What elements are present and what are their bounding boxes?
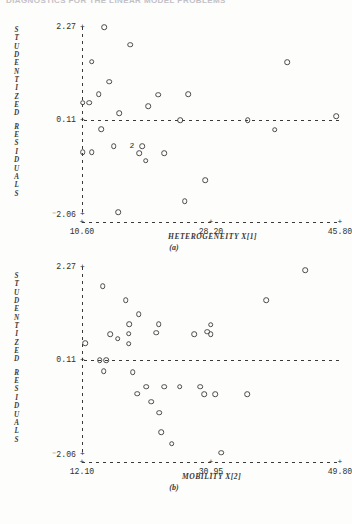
data-point xyxy=(123,297,129,303)
y-axis-title-letter: U xyxy=(14,165,19,173)
data-point xyxy=(80,100,86,106)
y-axis-title-letter: L xyxy=(14,181,18,189)
data-point xyxy=(103,357,109,363)
data-point xyxy=(161,384,167,390)
y-axis-title-letter: I xyxy=(15,148,18,156)
data-point xyxy=(177,117,183,123)
plot-area-a: ++++10.60+28.20+45.802 xyxy=(82,27,340,214)
x-tick-label: 49.80 xyxy=(328,467,352,476)
data-point xyxy=(218,450,224,456)
data-point xyxy=(263,297,269,303)
y-axis-title-letter: U xyxy=(14,289,19,297)
y-axis-title-letter: S xyxy=(15,272,19,280)
data-point xyxy=(198,384,204,390)
data-point xyxy=(191,332,197,338)
data-point xyxy=(130,369,136,375)
data-point xyxy=(126,341,132,347)
data-point xyxy=(169,441,175,447)
figure-a: STUDENTIZEDRESIDUALS 2.27 0.11 2.06 ++++… xyxy=(0,10,348,238)
data-point xyxy=(96,91,102,97)
data-point xyxy=(126,331,132,337)
y-axis-tick-mark: + xyxy=(80,264,86,270)
x-axis-tick-mark: + xyxy=(338,218,343,226)
data-point xyxy=(185,92,191,98)
data-point xyxy=(302,268,308,274)
y-axis-title-letter: E xyxy=(14,347,19,355)
y-tick-label-a-bottom: 2.06 xyxy=(16,209,76,219)
data-point xyxy=(117,111,123,117)
x-tick-label: 45.80 xyxy=(328,227,352,236)
x-axis-tick-mark: + xyxy=(209,218,214,226)
data-point xyxy=(106,79,112,85)
y-axis-title-letter: Z xyxy=(14,93,18,101)
y-axis-title-letter: Z xyxy=(14,339,18,347)
y-axis-title-letter: D xyxy=(14,156,19,164)
data-point xyxy=(126,321,132,327)
running-head: DIAGNOSTICS FOR THE LINEAR MODEL PROBLEM… xyxy=(6,0,342,6)
data-point xyxy=(213,391,219,397)
data-point xyxy=(87,100,93,106)
y-axis-title-letter: S xyxy=(15,139,19,147)
y-axis-title-letter: E xyxy=(14,101,19,109)
y-axis-title-letter: E xyxy=(14,377,19,385)
y-axis-title-letter: S xyxy=(15,190,19,198)
y-axis-title-letter: I xyxy=(15,394,18,402)
y-axis-title-letter: A xyxy=(14,173,19,181)
y-axis-title-letter: U xyxy=(14,411,19,419)
data-point xyxy=(135,391,141,397)
data-point xyxy=(202,178,208,184)
y-axis-title-letter: L xyxy=(14,427,18,435)
y-tick-label-a-top: 2.27 xyxy=(16,22,76,31)
data-point xyxy=(155,92,161,98)
y-axis-title-letter: R xyxy=(14,369,19,377)
data-point xyxy=(115,336,121,342)
y-axis-title-letter: D xyxy=(14,297,19,305)
data-point xyxy=(101,368,107,374)
data-point xyxy=(107,331,113,337)
data-point xyxy=(157,410,163,416)
data-point xyxy=(136,311,142,317)
y-axis-title-letter: T xyxy=(14,322,18,330)
data-point-multiple: 2 xyxy=(129,142,134,150)
y-axis-title-letter: T xyxy=(14,76,18,84)
y-axis-title-letter: T xyxy=(14,34,18,42)
data-point xyxy=(334,114,340,120)
y-axis-title-letter: E xyxy=(14,131,19,139)
x-tick-label: 12.10 xyxy=(70,467,95,476)
y-axis-title-letter: S xyxy=(15,385,19,393)
data-point xyxy=(244,391,250,397)
y-axis-title-letter: D xyxy=(14,402,19,410)
data-point xyxy=(245,117,251,123)
y-axis-tick-mark: + xyxy=(80,24,86,30)
data-point xyxy=(98,127,104,133)
data-point xyxy=(144,384,150,390)
x-tick-label: 10.60 xyxy=(70,227,95,236)
y-axis-title-letter: S xyxy=(15,436,19,444)
data-point xyxy=(83,341,89,347)
y-axis-title-letter: T xyxy=(14,280,18,288)
y-axis-title-letter: E xyxy=(14,305,19,313)
data-point xyxy=(159,430,165,436)
data-point xyxy=(139,143,145,149)
y-tick-label-a-mid: 0.11 xyxy=(16,115,76,124)
data-point xyxy=(101,24,107,30)
plot-area-b: ++++12.10+30.95+49.80 xyxy=(82,267,340,454)
data-point xyxy=(89,149,95,155)
y-axis-title-letter: U xyxy=(14,43,19,51)
y-tick-label-b-mid: 0.11 xyxy=(16,355,76,364)
data-point xyxy=(136,150,142,156)
data-point xyxy=(80,149,86,155)
y-axis-title-a: STUDENTIZEDRESIDUALS xyxy=(14,26,19,198)
x-axis-title-b: MOBILITY X[2] xyxy=(182,472,241,481)
data-point xyxy=(204,329,210,335)
y-tick-label-b-bottom: 2.06 xyxy=(16,449,76,459)
data-point xyxy=(111,143,117,149)
data-point xyxy=(208,322,214,328)
y-axis-title-letter: I xyxy=(15,84,18,92)
data-point xyxy=(145,103,151,109)
data-point xyxy=(143,158,149,164)
data-point xyxy=(128,42,134,48)
y-tick-label-b-top: 2.27 xyxy=(16,262,76,271)
y-axis-title-letter: D xyxy=(14,51,19,59)
